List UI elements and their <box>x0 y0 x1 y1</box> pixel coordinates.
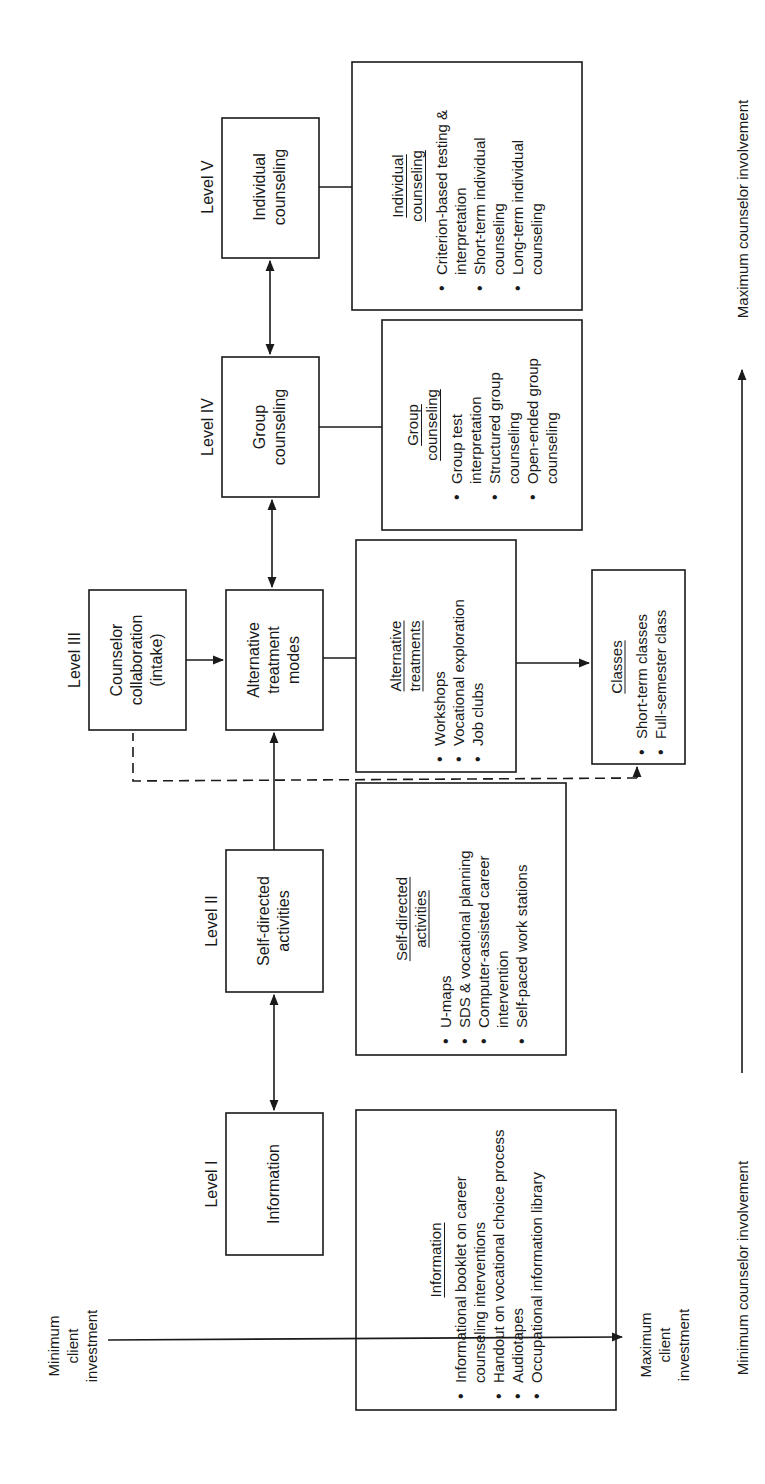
list-item: Workshops <box>430 550 449 762</box>
detail-title: Alternative treatments <box>387 621 423 692</box>
list-item: Computer-assisted career intervention <box>474 794 512 1044</box>
list-item: Audiotapes <box>508 1121 527 1399</box>
level-5-label: Level V <box>198 160 217 213</box>
axis-label-max-counselor-involvement: Maximum counselor involvement <box>733 100 752 318</box>
node-alternative-modes: Alternative treatment modes <box>244 622 304 698</box>
axis-label-min-counselor-involvement: Minimum counselor involvement <box>733 1161 752 1375</box>
detail-alternative-treatments: Alternative treatments Workshops Vocatio… <box>386 550 487 762</box>
detail-title: Group counseling <box>404 389 440 461</box>
node-counselor-collaboration: Counselor collaboration (intake) <box>107 615 167 706</box>
detail-title: Self-directed activities <box>393 877 429 961</box>
list-item: Occupational information library <box>527 1121 546 1399</box>
node-self-directed: Self-directed activities <box>254 876 294 966</box>
list-item: Short-term individual counseling <box>470 91 508 291</box>
detail-individual-counseling: Individual counseling Criterion-based te… <box>388 71 546 301</box>
level-2-label: Level II <box>202 895 221 947</box>
level-1-label: Level I <box>202 1160 221 1207</box>
axis-label-max-client-investment: Maximum client investment <box>636 1309 693 1382</box>
list-item: Long-term individual counseling <box>508 91 546 291</box>
axis-label-min-client-investment: Minimum client investment <box>44 1310 101 1383</box>
detail-title: Information <box>427 1222 444 1297</box>
list-item: Criterion-based testing & interpretation <box>432 91 470 291</box>
level-4-label: Level IV <box>198 398 217 456</box>
list-item: Structured group counseling <box>485 350 523 500</box>
node-information: Information <box>264 1144 284 1224</box>
list-item: Informational booklet on career counseli… <box>451 1121 489 1399</box>
node-individual-counseling: Individual counseling <box>250 149 290 226</box>
detail-information: Information Informational booklet on car… <box>426 1121 546 1399</box>
list-item: Handout on vocational choice process <box>489 1121 508 1399</box>
detail-title: Classes <box>608 640 625 693</box>
list-item: Full-semester class <box>651 579 670 755</box>
list-item: U-maps <box>436 794 455 1044</box>
list-item: Job clubs <box>468 550 487 762</box>
list-item: Short-term classes <box>632 579 651 755</box>
list-item: Group test interpretation <box>447 350 485 500</box>
list-item: Vocational exploration <box>449 550 468 762</box>
list-item: Open-ended group counseling <box>523 350 561 500</box>
level-3-label: Level III <box>65 632 84 688</box>
detail-group-counseling: Group counseling Group test interpretati… <box>403 330 561 520</box>
list-item: SDS & vocational planning <box>455 794 474 1044</box>
detail-classes: Classes Short-term classes Full-semester… <box>607 579 670 755</box>
detail-self-directed: Self-directed activities U-maps SDS & vo… <box>392 794 531 1044</box>
node-group-counseling: Group counseling <box>250 389 290 466</box>
detail-title: Individual counseling <box>389 150 425 222</box>
list-item: Self-paced work stations <box>512 794 531 1044</box>
